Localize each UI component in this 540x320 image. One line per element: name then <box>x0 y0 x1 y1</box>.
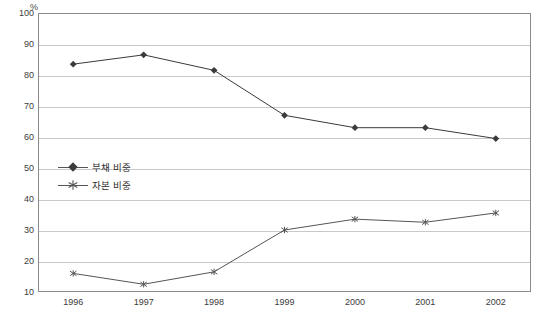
series-1 <box>70 51 499 142</box>
x-axis-tick-labels: 1996199719981999200020012002 <box>38 296 531 314</box>
data-point-marker <box>492 135 499 142</box>
y-tick-label: 30 <box>8 226 34 235</box>
y-tick-label: 20 <box>8 257 34 266</box>
legend-item-capital-ratio: 자본 비중 <box>58 178 131 192</box>
series-2 <box>70 210 499 288</box>
x-tick-label: 2002 <box>486 298 506 307</box>
legend-label-debt-ratio: 부채 비중 <box>92 160 131 174</box>
x-tick-label: 1997 <box>134 298 154 307</box>
y-tick-label: 70 <box>8 102 34 111</box>
y-tick-label: 80 <box>8 71 34 80</box>
data-point-marker <box>140 51 147 58</box>
x-tick-label: 2000 <box>345 298 365 307</box>
data-point-marker <box>281 112 288 119</box>
x-tick-label: 1996 <box>63 298 83 307</box>
data-point-marker <box>422 124 429 131</box>
x-tick-label: 1998 <box>204 298 224 307</box>
legend-marker-diamond-icon <box>58 161 88 173</box>
series-line <box>73 55 496 139</box>
legend-marker-asterisk-icon <box>58 179 88 191</box>
data-point-marker <box>352 124 359 131</box>
y-tick-label: 10 <box>8 288 34 297</box>
y-tick-label: 60 <box>8 133 34 142</box>
y-axis-tick-labels: 102030405060708090100 <box>0 13 34 292</box>
chart-legend: 부채 비중 자본 비중 <box>58 160 131 192</box>
y-tick-label: 50 <box>8 164 34 173</box>
legend-item-debt-ratio: 부채 비중 <box>58 160 131 174</box>
x-tick-label: 1999 <box>274 298 294 307</box>
chart-container: % 102030405060708090100 1996199719981999… <box>0 0 540 320</box>
legend-label-capital-ratio: 자본 비중 <box>92 178 131 192</box>
series-line <box>73 213 496 284</box>
data-point-marker <box>211 67 218 74</box>
data-point-marker <box>70 61 77 68</box>
x-tick-label: 2001 <box>415 298 435 307</box>
y-tick-label: 100 <box>8 9 34 18</box>
series-layer <box>38 13 531 292</box>
y-tick-label: 40 <box>8 195 34 204</box>
y-tick-label: 90 <box>8 40 34 49</box>
